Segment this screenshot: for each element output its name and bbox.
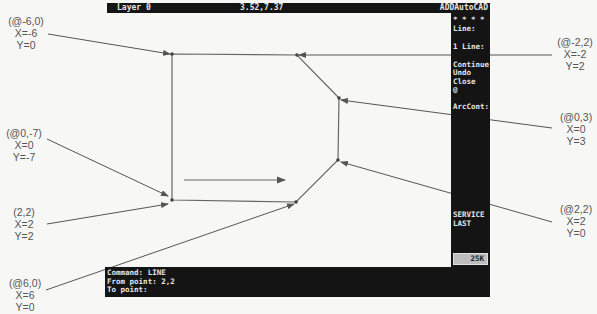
- annotation-x: X=-2: [554, 48, 596, 60]
- menu-item-at[interactable]: @: [453, 85, 458, 94]
- annotation-y: Y=0: [5, 301, 45, 313]
- menu-header[interactable]: * * * *: [453, 15, 485, 24]
- annotation-top-left: (@-6,0) X=-6 Y=0: [6, 15, 46, 51]
- annotation-bottom: (@6,0) X=6 Y=0: [5, 277, 45, 313]
- menu-item-undo[interactable]: Undo: [453, 68, 471, 77]
- menu-item-line[interactable]: Line:: [453, 24, 476, 33]
- layer-indicator[interactable]: Layer 0: [117, 3, 151, 13]
- annotation-title: (2,2): [6, 206, 42, 218]
- annotation-x: X=2: [556, 215, 596, 227]
- annotation-y: Y=3: [556, 135, 596, 147]
- app-title: ADDAutoCAD: [440, 3, 488, 13]
- annotation-y: Y=2: [6, 230, 42, 242]
- annotation-start-point: (2,2) X=2 Y=2: [6, 206, 42, 242]
- annotation-y: Y=-7: [4, 151, 44, 163]
- vertex-points: [170, 52, 341, 204]
- coordinate-readout: 3.52,7.37: [240, 3, 283, 13]
- annotation-x: X=2: [6, 218, 42, 230]
- annotation-left-upper: (@0,-7) X=0 Y=-7: [4, 127, 44, 163]
- command-history-line: From point: 2,2: [107, 278, 488, 287]
- annotation-title: (@6,0): [5, 277, 45, 289]
- annotation-right-upper: (@0,3) X=0 Y=3: [556, 111, 596, 147]
- annotation-y: Y=2: [554, 60, 596, 72]
- annotation-y: Y=0: [6, 39, 46, 51]
- annotation-title: (@-6,0): [6, 15, 46, 27]
- menu-item-1-line[interactable]: 1 Line:: [453, 42, 485, 51]
- annotation-x: X=6: [5, 289, 45, 301]
- annotation-x: X=0: [556, 123, 596, 135]
- annotation-top-right: (@-2,2) X=-2 Y=2: [554, 36, 596, 72]
- memory-indicator: 25K: [453, 253, 488, 265]
- annotation-title: (@2,2): [556, 203, 596, 215]
- command-line[interactable]: Command: LINE From point: 2,2 To point:: [105, 267, 490, 297]
- annotation-title: (@-2,2): [554, 36, 596, 48]
- annotation-x: X=-6: [6, 27, 46, 39]
- annotation-right-lower: (@2,2) X=2 Y=0: [556, 203, 596, 239]
- menu-item-arccont[interactable]: ArcCont:: [453, 102, 489, 111]
- status-bar: Layer 0 3.52,7.37 ADDAutoCAD: [107, 3, 490, 13]
- annotation-title: (@0,-7): [4, 127, 44, 139]
- annotation-y: Y=0: [556, 227, 596, 239]
- annotation-x: X=0: [4, 139, 44, 151]
- screen-menu: * * * * Line: 1 Line: Continue Undo Clos…: [451, 13, 490, 267]
- annotation-title: (@0,3): [556, 111, 596, 123]
- menu-item-last[interactable]: LAST: [453, 219, 471, 228]
- menu-item-service[interactable]: SERVICE: [453, 210, 485, 219]
- command-prompt[interactable]: To point:: [107, 286, 488, 295]
